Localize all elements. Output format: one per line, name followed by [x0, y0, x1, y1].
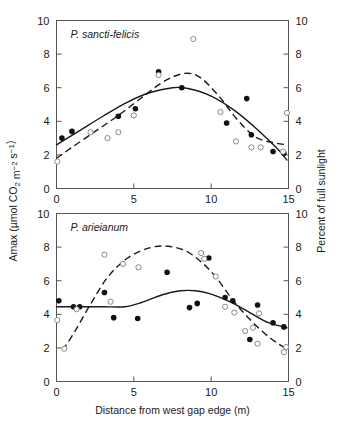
filled-circle-point [224, 120, 230, 126]
x-tick-label: 5 [131, 386, 137, 398]
y-tick-label-right: 6 [296, 82, 302, 94]
filled-circle-point [179, 85, 185, 91]
plot-frame [57, 214, 289, 382]
open-circle-point [222, 304, 227, 309]
filled-circle-point [249, 132, 255, 138]
figure-canvas: 00224466881010051015P. sancti-felicis002… [0, 0, 339, 437]
open-circle-series [55, 36, 290, 164]
y-tick-label-left: 10 [37, 15, 49, 27]
y-tick-label-left: 8 [43, 48, 49, 60]
open-circle-point [74, 307, 79, 312]
open-circle-point [258, 145, 263, 150]
x-tick-label: 15 [282, 386, 294, 398]
filled-circle-point [194, 301, 200, 307]
y-tick-label-left: 2 [43, 149, 49, 161]
filled-circle-point [230, 298, 236, 304]
y-tick-label-left: 6 [43, 82, 49, 94]
y-tick-label-right: 8 [296, 48, 302, 60]
y-tick-label-right: 10 [296, 15, 308, 27]
open-circle-point [233, 139, 238, 144]
open-circle-point [105, 136, 110, 141]
open-circle-series [55, 250, 289, 354]
open-circle-point [102, 252, 107, 257]
open-circle-point [284, 110, 289, 115]
open-circle-point [120, 261, 125, 266]
filled-circle-point [270, 149, 276, 155]
open-circle-point [250, 325, 255, 330]
x-tick-label: 5 [131, 193, 137, 205]
y-tick-label-left: 4 [43, 115, 49, 127]
filled-circle-point [247, 337, 253, 343]
filled-circle-point [187, 305, 193, 311]
y-tick-label-left: 0 [43, 376, 49, 388]
y-tick-label-right: 4 [296, 308, 302, 320]
y-tick-label-right: 0 [296, 183, 302, 195]
open-circle-point [284, 344, 289, 349]
panel-top: 00224466881010051015P. sancti-felicis [37, 15, 308, 205]
y-tick-label-left: 8 [43, 241, 49, 253]
filled-circle-point [281, 324, 287, 330]
open-circle-point [243, 329, 248, 334]
scientific-figure: 00224466881010051015P. sancti-felicis002… [0, 0, 339, 437]
open-circle-point [55, 318, 60, 323]
x-tick-label: 10 [205, 193, 217, 205]
open-circle-point [202, 256, 207, 261]
open-circle-point [116, 130, 121, 135]
y-tick-label-right: 2 [296, 342, 302, 354]
panel-species-label: P. sancti-felicis [71, 28, 140, 40]
x-tick-label: 15 [282, 193, 294, 205]
open-circle-point [281, 350, 286, 355]
open-circle-point [232, 310, 237, 315]
y-tick-label-left: 0 [43, 183, 49, 195]
filled-circle-point [102, 290, 108, 296]
open-circle-point [191, 36, 196, 41]
open-circle-point [156, 73, 161, 78]
x-axis-title: Distance from west gap edge (m) [95, 404, 250, 416]
y-tick-label-left: 2 [43, 342, 49, 354]
filled-circle-point [164, 270, 170, 276]
filled-circle-point [111, 315, 117, 321]
y-tick-label-right: 2 [296, 149, 302, 161]
y-axis-title-right: Percent of full sunlight [315, 149, 327, 252]
y-tick-label-right: 4 [296, 115, 302, 127]
filled-circle-series [59, 69, 287, 156]
y-tick-label-left: 4 [43, 308, 49, 320]
open-circle-point [255, 341, 260, 346]
open-circle-point [257, 311, 262, 316]
y-tick-label-right: 10 [296, 208, 308, 220]
plot-frame [57, 21, 289, 189]
open-circle-point [199, 250, 204, 255]
open-circle-point [88, 130, 93, 135]
panel-species-label: P. arieianum [71, 221, 129, 233]
filled-circle-point [270, 320, 276, 326]
filled-circle-point [133, 106, 139, 112]
y-tick-label-right: 8 [296, 241, 302, 253]
open-circle-point [131, 113, 136, 118]
x-tick-label: 10 [205, 386, 217, 398]
y-tick-label-right: 0 [296, 376, 302, 388]
x-tick-label: 0 [53, 386, 59, 398]
filled-circle-point [244, 96, 250, 102]
solid-fit-curve [57, 290, 287, 327]
open-circle-point [62, 346, 67, 351]
filled-circle-point [69, 129, 75, 135]
filled-circle-point [255, 302, 261, 308]
filled-circle-point [222, 295, 228, 301]
open-circle-point [213, 274, 218, 279]
open-circle-point [280, 149, 285, 154]
filled-circle-point [135, 316, 141, 322]
y-axis-title-left: Amax (µmol CO2 m−2 s−1) [4, 141, 22, 262]
x-tick-label: 0 [53, 193, 59, 205]
open-circle-point [249, 145, 254, 150]
open-circle-point [136, 265, 141, 270]
open-circle-point [108, 299, 113, 304]
dashed-fit-curve [63, 246, 286, 350]
y-tick-label-left: 6 [43, 275, 49, 287]
open-circle-point [55, 159, 60, 164]
open-circle-point [218, 109, 223, 114]
y-tick-label-left: 10 [37, 208, 49, 220]
filled-circle-point [56, 298, 62, 304]
filled-circle-point [116, 113, 122, 119]
filled-circle-point [59, 135, 65, 141]
y-tick-label-right: 6 [296, 275, 302, 287]
